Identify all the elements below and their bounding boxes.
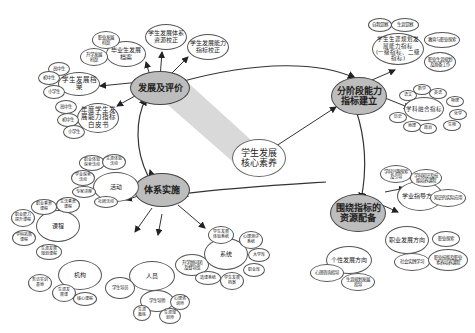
implement-child-node-label: 教练 (138, 313, 146, 318)
resource-child-node-label: 职业探索 (438, 236, 454, 241)
indicator-child-node: 生涯觉察 (391, 18, 419, 32)
eval-child-node-label: 档案 (111, 54, 141, 61)
eval-child-node-label: 高中生 (60, 104, 72, 109)
eval-child-node-label: 高中生 (53, 66, 65, 71)
eval-child-node: 小学生 (63, 125, 85, 139)
indicator-child-node: 历史 (389, 112, 407, 123)
implement-child-node-label: 职业库 (248, 268, 260, 273)
hub-implement-label: 体系实施 (144, 185, 180, 195)
resource-child-node: 心理咨询指导 (310, 264, 344, 282)
hub-implement: 体系实施 (134, 173, 190, 207)
indicator-child-node: 化学 (449, 109, 467, 120)
implement-child-node: 学生发展档案 (220, 272, 244, 290)
eval-child-node: 学生发展体系资源校正 (145, 24, 187, 50)
implement-child-node-label: 社团活动 (98, 200, 114, 205)
implement-child-node: 人员 (129, 261, 175, 291)
implement-child-node: 大学库 (248, 248, 270, 262)
indicator-child-node-label: 学生生涯规划发 (374, 36, 422, 42)
indicator-child-node-label: 化学 (454, 112, 462, 117)
indicator-child-node-label: (一级指标、二级指标) (374, 49, 422, 62)
indicator-child-node-label: 学科融合指标 (406, 106, 442, 112)
eval-child-node-label: 档案 (86, 57, 102, 62)
implement-child-node: 学生发展体验系统 (208, 226, 234, 244)
hub-resource: 围绕指标的资源配备 (330, 194, 386, 232)
indicator-child-node-label: 生涯觉察 (397, 22, 413, 27)
indicator-child-node-label: 数学 (418, 87, 426, 92)
eval-child-node-label: 指标校正 (190, 47, 226, 54)
implement-child-node-label: 提升课程 (15, 218, 31, 223)
resource-child-node: 知识的实际应用 (430, 189, 466, 207)
resource-child-node-label: 心理咨询指导 (315, 270, 339, 275)
resource-child-node-label: 能培养课程 (414, 178, 438, 183)
implement-child-node: 社团活动 (94, 196, 118, 208)
eval-child-node: 高中生 (55, 100, 77, 114)
implement-child-node-label: 及督导组 (182, 265, 202, 270)
indicator-child-node: 地理 (403, 121, 421, 132)
implement-child-node-label: 系统 (220, 251, 232, 258)
resource-child-node: 职业技能及职业素养培养课程 (428, 249, 468, 271)
implement-child-node-label: 课程 (16, 238, 32, 243)
implement-child-node: 专家讲座 (72, 186, 96, 198)
eval-child-node-label: 学生发展档案 (60, 77, 98, 92)
implement-child-node-label: 活动 (106, 162, 122, 167)
indicator-child-node-label: 英语 (434, 91, 442, 96)
indicator-child-node: 职业生涯规划及准备工作 (424, 52, 456, 72)
indicator-child-node-label: 历史 (394, 115, 402, 120)
indicator-child-node: 生物 (443, 120, 461, 131)
resource-child-node: 社会实践学习 (394, 253, 430, 271)
hub-indicator-label: 分阶段能力 (337, 86, 382, 96)
implement-child-node-label: 规划课程 (41, 252, 57, 257)
implement-child-node-label: 基地 (32, 283, 48, 288)
indicator-child-node-label: 地理 (408, 124, 416, 129)
implement-child-node-label: 活动 (75, 178, 91, 183)
eval-child-node-label: 档案 (98, 40, 114, 45)
eval-child-node-label: 资源校正 (148, 37, 184, 44)
eval-child-node: 职业发展档案 (92, 31, 120, 49)
eval-child-node: 学生发展能力指标校正 (187, 34, 229, 60)
indicator-child-node-label: 生物 (448, 123, 456, 128)
implement-child-node: 职业素养课程 (31, 199, 57, 215)
implement-child-node: 务访实训基地 (28, 274, 52, 292)
resource-child-node-label: 社会实践学习 (400, 259, 424, 264)
implement-child-node: 生涯教练 (133, 305, 151, 321)
indicator-child-node: 物理 (446, 96, 464, 107)
implement-child-node: 生涯发展规划课程 (36, 244, 62, 260)
resource-child-node-label: 及引导 (384, 174, 408, 179)
implement-child-node-label: 档案 (224, 281, 240, 286)
implement-child-node: 生活素养课程 (56, 197, 80, 213)
indicator-child-node: 政治 (419, 123, 437, 134)
implement-child-node-label: 体验系统 (213, 235, 229, 240)
implement-child-node-label: 课程 (52, 223, 64, 230)
implement-child-node: 职业库 (243, 263, 265, 277)
resource-child-node-label: 素养培养课程 (434, 260, 462, 265)
eval-child-node: 小学生 (43, 85, 65, 99)
implement-child-node: 生涯规划师 (159, 308, 181, 324)
eval-child-node-label: 初中生 (62, 117, 74, 122)
mind-map-diagram: 学生发展核心素养发展及评价分阶段能力指标建立围绕指标的资源配备体系实施学生发展体… (0, 0, 475, 333)
implement-child-node-label: 学生导师 (149, 298, 165, 303)
implement-child-node-label: 大学库 (253, 253, 265, 258)
eval-child-node-label: 初中生 (43, 75, 55, 80)
implement-child-node-label: 选课系统 (200, 276, 216, 281)
implement-child-node: 职业能力提升课程 (11, 209, 35, 227)
indicator-child-node: 学科融合指标 (404, 97, 444, 121)
implement-child-node-label: 专家讲座 (76, 190, 92, 195)
implement-child-node-label: 划师 (164, 316, 176, 321)
implement-child-node: 职业体验探索活动 (79, 155, 105, 171)
implement-child-node-label: 活动 (110, 184, 122, 191)
implement-child-node-label: 询师 (174, 302, 186, 307)
indicator-child-node-label: 教育与职业探索 (428, 37, 456, 42)
hub-eval: 发展及评价 (130, 71, 190, 105)
eval-child-node-label: 白皮书 (81, 122, 116, 129)
indicator-child-node: 自我觉察 (368, 18, 392, 32)
implement-child-node-label: 课程 (36, 207, 52, 212)
resource-child-node: 学科兴趣探索及引导 (380, 165, 412, 183)
implement-child-node: 核心课程 (73, 292, 97, 306)
resource-child-node: 职业发展方向 (385, 226, 429, 254)
hub-indicator-label: 指标建立 (337, 96, 382, 106)
implement-child-node-label: 学生导员 (112, 285, 128, 290)
implement-child-node-label: 机构 (74, 272, 86, 279)
resource-child-node: 学科知识及技能培养课程 (410, 169, 442, 187)
eval-child-node: 初中生 (38, 71, 60, 85)
implement-child-node: 学业探索活动 (71, 170, 95, 186)
